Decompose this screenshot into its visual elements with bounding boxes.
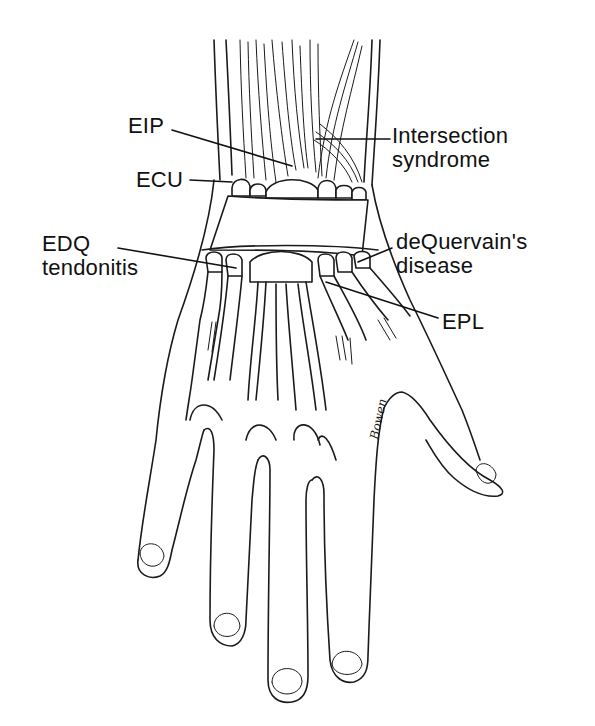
hand-wrist-illustration: Bowen xyxy=(0,0,595,726)
artist-signature: Bowen xyxy=(367,397,389,441)
label-eip: EIP xyxy=(128,114,164,138)
extensor-tendons-hand xyxy=(186,268,410,420)
label-intersection-syndrome: Intersection syndrome xyxy=(392,124,508,172)
label-ecu: ECU xyxy=(136,168,183,192)
label-edq-tendonitis: EDQ tendonitis xyxy=(42,232,138,280)
label-epl: EPL xyxy=(442,310,484,334)
forearm-tendons xyxy=(214,40,380,185)
label-dequervains-disease: deQuervain's disease xyxy=(396,230,527,278)
leader-ecu xyxy=(190,180,232,182)
